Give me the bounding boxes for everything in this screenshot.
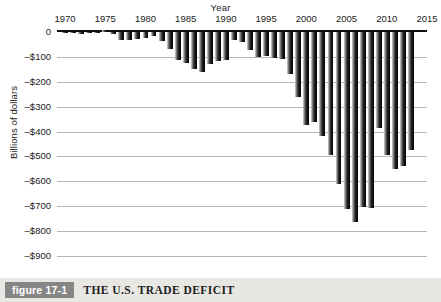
y-axis-tick-label: –$400: [3, 125, 51, 136]
bar: [78, 32, 84, 34]
y-axis-tick-label: –$500: [3, 150, 51, 161]
bar: [336, 32, 342, 184]
y-axis-tick-label: –$300: [3, 100, 51, 111]
figure-caption: figure 17-1 THE U.S. TRADE DEFICIT: [0, 278, 441, 302]
y-axis-tick-label: –$100: [3, 50, 51, 61]
y-axis-tick-label: 0: [3, 26, 51, 37]
bar: [303, 32, 309, 125]
figure-title: THE U.S. TRADE DEFICIT: [83, 284, 234, 296]
x-axis-tick-label: 1990: [215, 13, 236, 24]
bar: [151, 32, 157, 36]
x-axis-tick-label: 1970: [54, 13, 75, 24]
bar: [360, 32, 366, 207]
x-axis-tick-label: 1980: [135, 13, 156, 24]
bar: [352, 32, 358, 222]
bar: [183, 32, 189, 63]
bar: [110, 32, 116, 34]
bar: [231, 32, 237, 40]
bar: [223, 32, 229, 60]
bar: [384, 32, 390, 155]
bar: [159, 32, 165, 41]
bar: [400, 32, 406, 166]
bar: [287, 32, 293, 74]
x-axis-tick-label: 2000: [296, 13, 317, 24]
bar: [344, 32, 350, 209]
bar: [255, 32, 261, 57]
bar: [295, 32, 301, 97]
bar: [408, 32, 414, 150]
bar: [70, 32, 76, 33]
x-axis-tick-label: 1985: [175, 13, 196, 24]
x-axis-tick-label: 2010: [376, 13, 397, 24]
bar: [118, 32, 124, 40]
bar: [143, 32, 149, 38]
x-axis-tick-label: 2005: [336, 13, 357, 24]
bar: [175, 32, 181, 60]
x-axis-tick-label: 1995: [256, 13, 277, 24]
bar: [311, 32, 317, 122]
y-axis-tick-label: –$700: [3, 200, 51, 211]
figure-number-badge: figure 17-1: [5, 282, 74, 298]
bar: [86, 32, 92, 33]
bar: [207, 32, 213, 64]
bar: [94, 32, 100, 33]
bar: [102, 30, 108, 32]
x-axis-tick-label: 2015: [416, 13, 437, 24]
gridline: [57, 231, 427, 232]
bar: [368, 32, 374, 208]
bar: [62, 32, 68, 33]
plot-area: 0–$100–$200–$300–$400–$500–$600–$700–$80…: [57, 32, 427, 256]
bar: [134, 32, 140, 39]
bar: [167, 32, 173, 49]
bar: [126, 32, 132, 40]
bar: [263, 32, 269, 56]
bar: [392, 32, 398, 169]
bar: [215, 32, 221, 61]
bar: [199, 32, 205, 72]
bar: [328, 32, 334, 155]
bar: [247, 32, 253, 50]
bar: [191, 32, 197, 69]
bar: [271, 32, 277, 58]
bar: [279, 32, 285, 59]
y-axis-tick-label: –$800: [3, 225, 51, 236]
bar: [239, 32, 245, 42]
bar: [319, 32, 325, 136]
bar: [376, 32, 382, 128]
figure-container: Year Billions of dollars 0–$100–$200–$30…: [0, 0, 441, 302]
x-axis-title: Year: [0, 2, 441, 13]
y-axis-tick-label: –$900: [3, 250, 51, 261]
y-axis-tick-label: –$600: [3, 175, 51, 186]
gridline: [57, 256, 427, 257]
x-axis-tick-label: 1975: [95, 13, 116, 24]
y-axis-tick-label: –$200: [3, 75, 51, 86]
